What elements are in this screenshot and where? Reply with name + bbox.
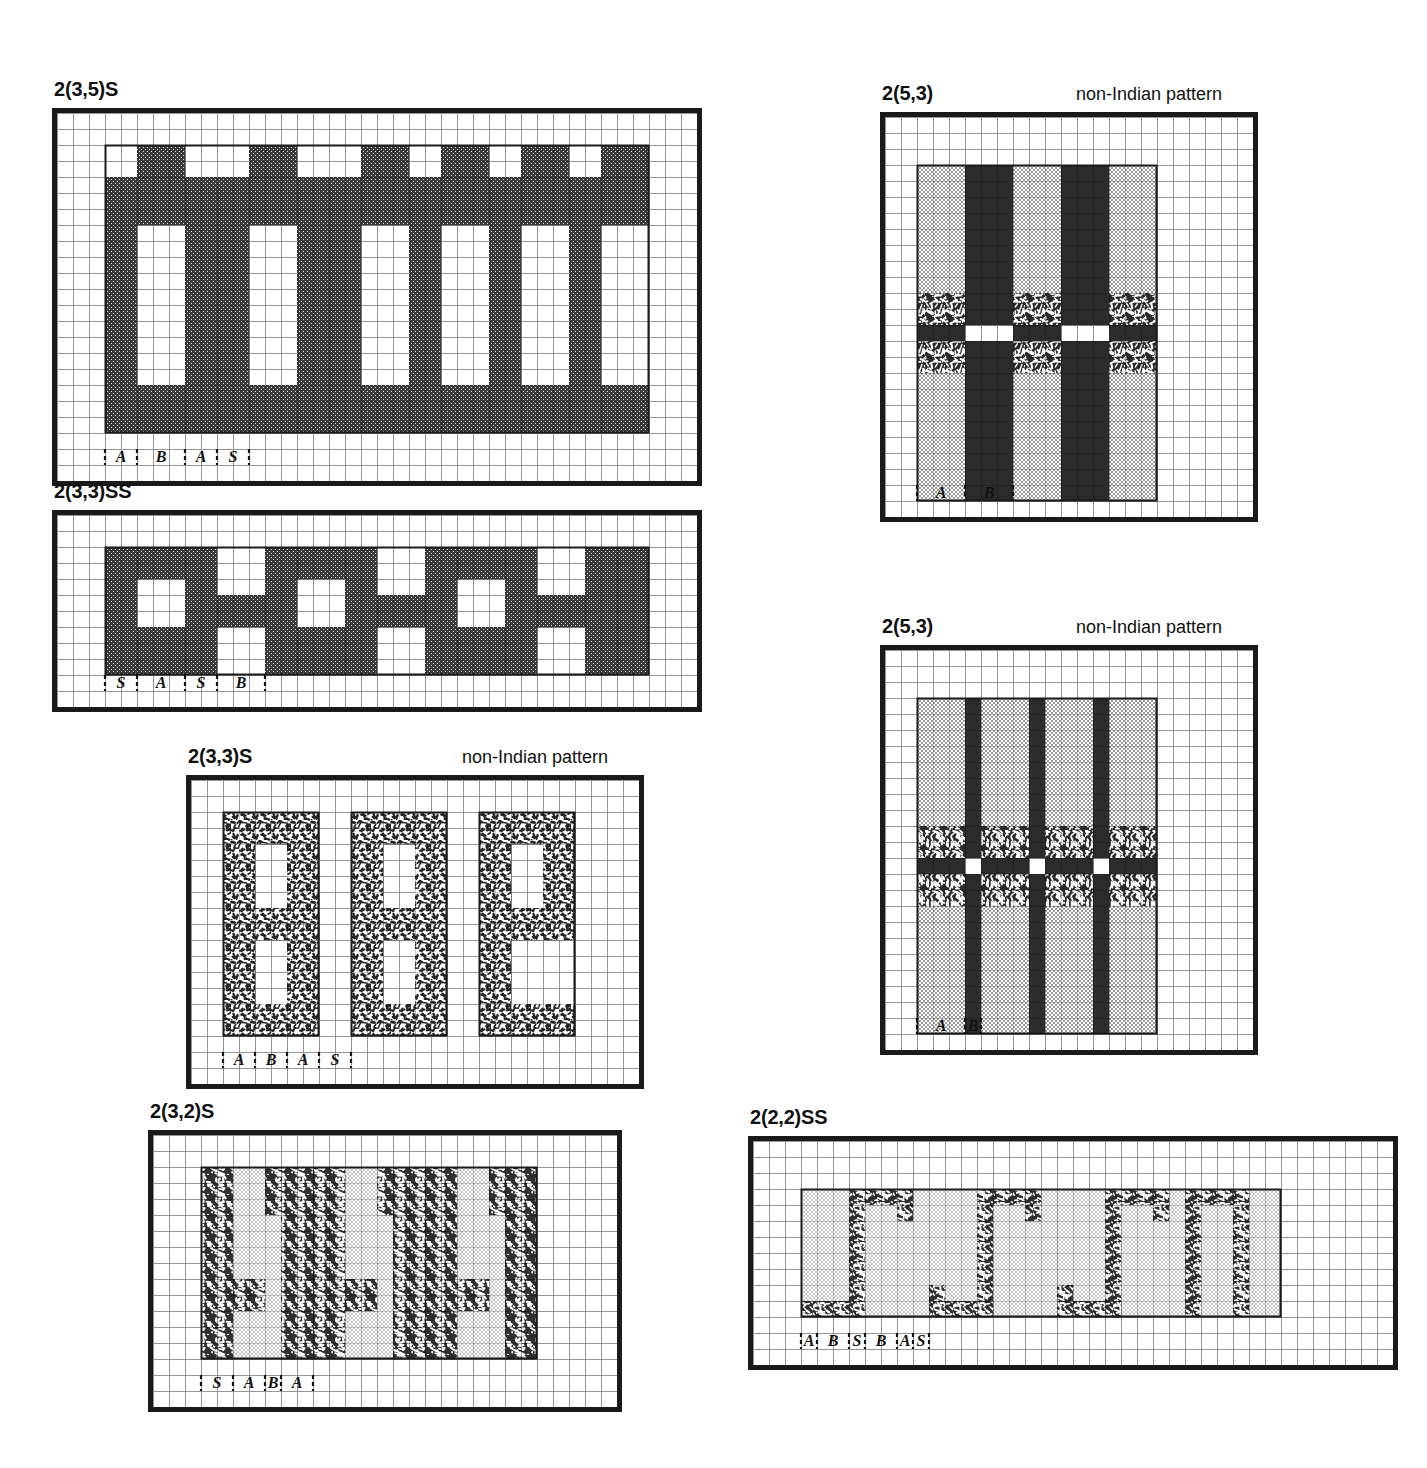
svg-text:B: B — [155, 448, 167, 465]
svg-text:S: S — [853, 1332, 862, 1349]
pattern-grid-p1: ABAS — [57, 113, 697, 481]
svg-text:B: B — [267, 1374, 279, 1391]
panel-label-p1: 2(3,5)S — [54, 78, 118, 101]
panel-label-p6: 2(3,2)S — [150, 1100, 214, 1123]
svg-text:S: S — [917, 1332, 926, 1349]
svg-text:S: S — [197, 674, 206, 691]
svg-text:A: A — [803, 1332, 815, 1349]
pattern-grid-p4: AB — [885, 117, 1253, 517]
panel-label-p2: 2(3,3)SS — [54, 480, 131, 503]
svg-text:B: B — [235, 674, 247, 691]
svg-text:A: A — [233, 1051, 245, 1068]
svg-text:B: B — [265, 1051, 277, 1068]
svg-text:A: A — [155, 674, 167, 691]
pattern-grid-p5: AB — [885, 650, 1253, 1050]
svg-text:A: A — [297, 1051, 309, 1068]
svg-text:A: A — [115, 448, 127, 465]
svg-text:A: A — [291, 1374, 303, 1391]
svg-text:S: S — [117, 674, 126, 691]
pattern-grid-p3: ABAS — [191, 780, 639, 1084]
panel-label-p5: 2(5,3) — [882, 615, 933, 638]
svg-text:S: S — [229, 448, 238, 465]
pattern-grid-p2: SASB — [57, 515, 697, 707]
svg-text:A: A — [935, 484, 947, 501]
svg-text:B: B — [827, 1332, 839, 1349]
svg-text:A: A — [899, 1332, 911, 1349]
svg-text:S: S — [331, 1051, 340, 1068]
svg-text:A: A — [935, 1017, 947, 1034]
svg-text:A: A — [243, 1374, 255, 1391]
panel-label-p3: 2(3,3)S — [188, 745, 252, 768]
svg-text:A: A — [195, 448, 207, 465]
panel-note-p3: non-Indian pattern — [462, 747, 608, 768]
panel-label-p7: 2(2,2)SS — [750, 1106, 827, 1129]
panel-label-p4: 2(5,3) — [882, 82, 933, 105]
pattern-grid-p7: ABSBAS — [753, 1141, 1393, 1365]
svg-text:B: B — [983, 484, 995, 501]
svg-text:B: B — [875, 1332, 887, 1349]
svg-text:B: B — [967, 1017, 979, 1034]
panel-note-p5: non-Indian pattern — [1076, 617, 1222, 638]
svg-text:S: S — [213, 1374, 222, 1391]
pattern-grid-p6: SABA — [153, 1135, 617, 1407]
panel-note-p4: non-Indian pattern — [1076, 84, 1222, 105]
